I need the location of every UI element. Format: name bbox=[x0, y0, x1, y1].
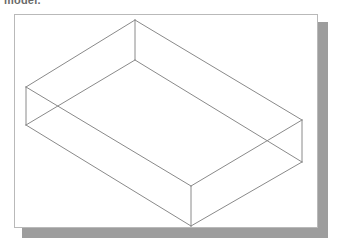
figure-caption: model. bbox=[4, 0, 41, 4]
drawing-sheet bbox=[14, 14, 318, 228]
screenshot-root: model. bbox=[0, 0, 338, 250]
